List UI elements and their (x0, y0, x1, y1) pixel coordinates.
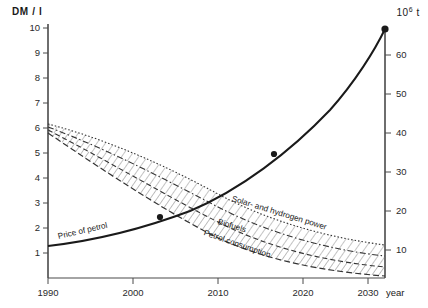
x-tick-2030: 2030 (348, 287, 388, 298)
y-left-tick-5: 5 (18, 147, 40, 158)
y-axis-right-ticks (385, 55, 391, 250)
y-left-tick-4: 4 (18, 172, 40, 183)
x-tick-1990: 1990 (28, 287, 68, 298)
y-right-tick-10: 10 (396, 244, 407, 255)
y-left-tick-8: 8 (18, 72, 40, 83)
y-right-tick-60: 60 (396, 49, 407, 60)
y-left-tick-7: 7 (18, 97, 40, 108)
y-right-tick-40: 40 (396, 127, 407, 138)
chart-container: DM / l 106 t (0, 0, 428, 308)
x-tick-2010: 2010 (198, 287, 238, 298)
x-axis-ticks (48, 278, 368, 284)
x-tick-2000: 2000 (113, 287, 153, 298)
y-left-tick-10: 10 (18, 22, 40, 33)
y-right-tick-20: 20 (396, 205, 407, 216)
chart-plot-svg (0, 0, 428, 308)
y-left-tick-3: 3 (18, 197, 40, 208)
x-tick-2020: 2020 (283, 287, 323, 298)
y-left-tick-9: 9 (18, 47, 40, 58)
y-left-tick-2: 2 (18, 222, 40, 233)
y-right-tick-50: 50 (396, 88, 407, 99)
y-right-tick-30: 30 (396, 166, 407, 177)
x-axis-title: year (386, 287, 404, 298)
y-left-tick-6: 6 (18, 122, 40, 133)
y-left-tick-1: 1 (18, 247, 40, 258)
